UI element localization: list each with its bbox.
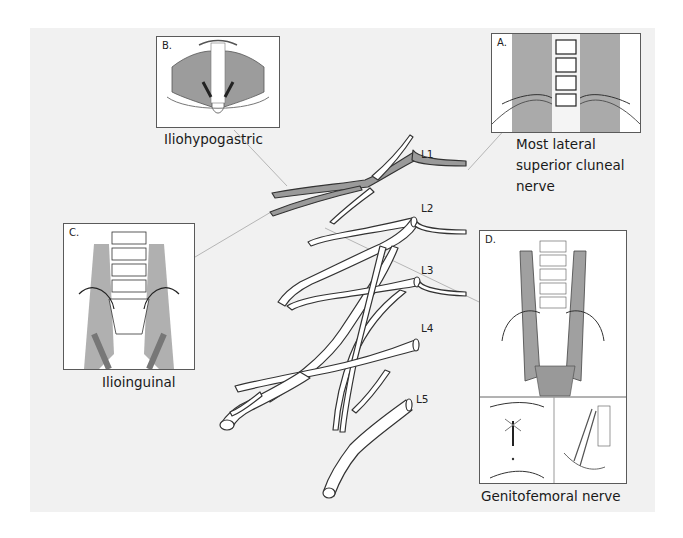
lumbar-pelvis-illustration bbox=[64, 224, 194, 369]
posterior-lumbar-illustration bbox=[492, 34, 640, 132]
inset-letter: A. bbox=[497, 37, 507, 48]
caption-genitofemoral: Genitofemoral nerve bbox=[481, 486, 621, 507]
level-label-l3: L3 bbox=[421, 264, 434, 276]
level-label-l4: L4 bbox=[421, 322, 434, 334]
inset-letter: C. bbox=[69, 227, 79, 238]
caption-ilioinguinal: Ilioinguinal bbox=[102, 372, 176, 393]
level-label-l2: L2 bbox=[421, 202, 434, 214]
inset-b-abdominal-wall: B. bbox=[156, 36, 280, 128]
inset-d-pelvis-psoas: D. bbox=[479, 230, 627, 484]
inset-a-posterior-lumbar: A. bbox=[491, 33, 641, 133]
pelvis-psoas-illustration bbox=[480, 231, 626, 483]
inset-c-lumbar-pelvis: C. bbox=[63, 223, 195, 370]
caption-superior-cluneal: Most lateral superior cluneal nerve bbox=[516, 134, 624, 197]
caption-iliohypogastric: Iliohypogastric bbox=[164, 129, 263, 150]
abdominal-muscles-illustration bbox=[157, 37, 279, 127]
level-label-l1: L1 bbox=[421, 148, 434, 160]
leader-lines bbox=[190, 126, 508, 312]
level-label-l5: L5 bbox=[416, 393, 429, 405]
inset-letter: D. bbox=[485, 234, 496, 245]
inset-letter: B. bbox=[162, 40, 172, 51]
